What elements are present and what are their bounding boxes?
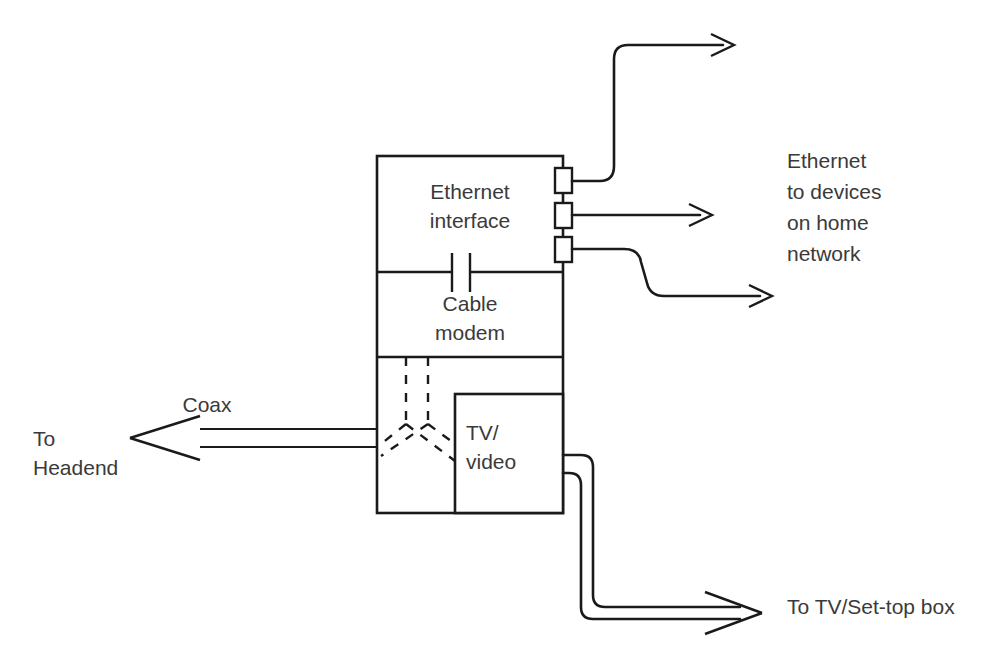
ethernet-port-2[interactable] (555, 203, 572, 228)
tv-cable-arrowhead-upper (705, 592, 762, 613)
tv-video-label-line2: video (466, 450, 516, 473)
coax-arrowhead-upper (130, 416, 200, 438)
cable-modem-label-line1: Cable (443, 292, 498, 315)
to-headend-label-line1: To (33, 427, 55, 450)
tv-cable-inner (563, 473, 740, 619)
diagram-canvas: Ethernet interface Cable modem TV/ video… (0, 0, 1000, 654)
ethernet-interface-label-line2: interface (430, 209, 511, 232)
ethernet-port-3[interactable] (555, 237, 572, 262)
cable-modem-label-line2: modem (435, 321, 505, 344)
tv-video-label-line1: TV/ (466, 421, 499, 444)
ethernet-devices-label-line3: on home (787, 211, 869, 234)
ethernet-devices-label-line4: network (787, 242, 861, 265)
tv-cable-outer (563, 455, 740, 607)
ethernet-cable-3 (572, 249, 760, 296)
ethernet-port-1[interactable] (555, 168, 572, 193)
ethernet-devices-label-line2: to devices (787, 180, 882, 203)
ethernet-cable-1 (572, 45, 723, 181)
tv-cable-arrowhead-lower (705, 613, 762, 634)
network-diagram: Ethernet interface Cable modem TV/ video… (0, 0, 1000, 654)
to-headend-label-line2: Headend (33, 456, 118, 479)
ethernet-interface-label-line1: Ethernet (430, 180, 510, 203)
coax-label: Coax (182, 393, 232, 416)
ethernet-devices-label-line1: Ethernet (787, 149, 867, 172)
coax-arrowhead-lower (130, 438, 200, 460)
to-tv-settop-label: To TV/Set-top box (787, 595, 955, 618)
